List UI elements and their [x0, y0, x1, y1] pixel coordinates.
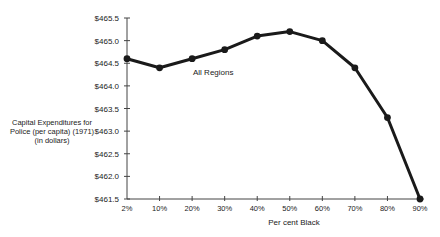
series-annotation: All Regions: [193, 68, 233, 77]
series-all-regions: [124, 28, 424, 202]
y-tick-label: $464.0: [95, 82, 120, 91]
axes: $461.5$462.0$462.5$463.0$463.5$464.0$464…: [95, 14, 428, 213]
x-tick-label: 60%: [315, 204, 330, 213]
data-point: [286, 28, 293, 35]
data-point: [351, 64, 358, 71]
x-tick-label: 40%: [250, 204, 265, 213]
data-point: [156, 64, 163, 71]
data-point: [417, 196, 424, 203]
data-point: [384, 114, 391, 121]
data-point: [124, 55, 131, 62]
line-chart: $461.5$462.0$462.5$463.0$463.5$464.0$464…: [0, 0, 440, 237]
x-tick-label: 10%: [152, 204, 167, 213]
x-tick-label: 30%: [217, 204, 232, 213]
x-tick-label: 20%: [185, 204, 200, 213]
x-tick-label: 80%: [380, 204, 395, 213]
y-tick-label: $464.5: [95, 59, 120, 68]
x-tick-label: 90%: [412, 204, 427, 213]
series-line: [127, 32, 420, 199]
y-tick-label: $463.0: [95, 127, 120, 136]
y-tick-label: $465.5: [95, 14, 120, 23]
data-point: [189, 55, 196, 62]
y-tick-label: $463.5: [95, 105, 120, 114]
x-tick-label: 2%: [122, 204, 133, 213]
x-tick-label: 50%: [282, 204, 297, 213]
y-tick-label: $462.5: [95, 150, 120, 159]
data-point: [319, 37, 326, 44]
y-tick-label: $462.0: [95, 172, 120, 181]
data-point: [221, 46, 228, 53]
x-tick-label: 70%: [347, 204, 362, 213]
y-tick-label: $461.5: [95, 195, 120, 204]
data-point: [254, 33, 261, 40]
x-axis-title: Per cent Black: [268, 218, 321, 227]
y-tick-label: $465.0: [95, 37, 120, 46]
